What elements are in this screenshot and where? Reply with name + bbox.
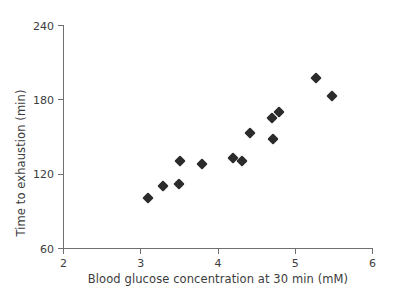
data-point (244, 127, 255, 138)
y-axis-label-text: Time to exhaustion (min) (14, 89, 28, 236)
y-axis-tick: 180 (58, 99, 64, 100)
x-axis-tick-label: 5 (292, 257, 299, 270)
data-point (142, 193, 153, 204)
x-axis-tick: 3 (140, 248, 141, 254)
x-axis-label: Blood glucose concentration at 30 min (m… (63, 272, 373, 286)
x-axis-tick-label: 4 (215, 257, 222, 270)
x-axis-tick: 5 (295, 248, 296, 254)
x-axis-tick-label: 2 (60, 257, 67, 270)
data-point (175, 156, 186, 167)
x-axis-tick-label: 3 (137, 257, 144, 270)
data-point (311, 73, 322, 84)
data-point (173, 178, 184, 189)
x-axis-tick-label: 6 (369, 257, 376, 270)
plot-area: 24018012060 23456 (63, 25, 372, 248)
x-axis-tick: 6 (372, 248, 373, 254)
y-axis-tick: 120 (58, 174, 64, 175)
data-point (237, 156, 248, 167)
data-point (158, 180, 169, 191)
scatter-plot-figure: Time to exhaustion (min) 24018012060 234… (0, 0, 400, 302)
x-axis-tick: 2 (63, 248, 64, 254)
y-axis-tick-label: 240 (33, 19, 54, 32)
data-point (267, 133, 278, 144)
y-axis-tick: 240 (58, 25, 64, 26)
x-axis-tick: 4 (218, 248, 219, 254)
y-axis-tick-label: 180 (33, 93, 54, 106)
data-point (326, 90, 337, 101)
y-axis-tick-label: 60 (40, 242, 54, 255)
x-axis-label-text: Blood glucose concentration at 30 min (m… (88, 272, 348, 286)
data-point (196, 158, 207, 169)
y-axis-label: Time to exhaustion (min) (8, 0, 34, 302)
y-axis-line (63, 25, 64, 248)
y-axis-tick-label: 120 (33, 168, 54, 181)
